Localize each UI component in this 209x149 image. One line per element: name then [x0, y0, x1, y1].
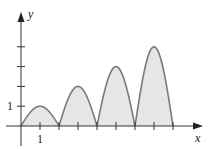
arch-areas	[21, 47, 173, 126]
x-axis-label: x	[194, 131, 201, 145]
y-tick-label-1: 1	[7, 99, 13, 113]
x-axis-arrow-icon	[193, 123, 203, 130]
chart: y x 1 1	[0, 0, 209, 149]
x-tick-label-1: 1	[37, 132, 43, 146]
y-axis-label: y	[27, 7, 34, 21]
y-axis-arrow-icon	[18, 12, 25, 22]
